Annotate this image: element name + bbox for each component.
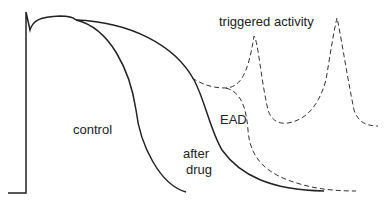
action-potential-diagram: triggered activity control EAD after dru…: [0, 0, 392, 204]
ead-trace: [226, 88, 356, 191]
triggered-activity-trace: [192, 18, 378, 126]
label-after: after: [183, 146, 210, 161]
upstroke-trace: [8, 12, 76, 193]
control-trace: [76, 20, 186, 192]
label-ead: EAD: [220, 112, 247, 127]
label-drug: drug: [186, 162, 212, 177]
label-triggered-activity: triggered activity: [219, 14, 314, 29]
label-control: control: [73, 122, 112, 137]
